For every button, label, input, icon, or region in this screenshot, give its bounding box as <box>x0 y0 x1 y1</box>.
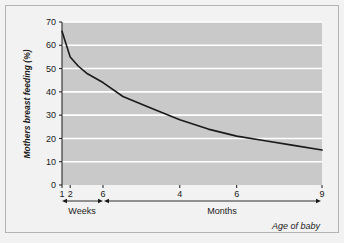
x-axis-ticks-group: 126469 <box>59 185 324 199</box>
x-axis-tick-label: 6 <box>234 189 239 199</box>
weeks-span-group: Weeks <box>62 199 103 216</box>
y-axis-tick-label: 10 <box>46 157 56 167</box>
y-axis-tick-label: 40 <box>46 87 56 97</box>
y-axis-tick-label: 20 <box>46 134 56 144</box>
months-span-right-arrowhead <box>316 199 321 203</box>
y-axis-tick-label: 70 <box>46 17 56 27</box>
months-span-group: Months <box>104 199 321 216</box>
weeks-span-right-arrowhead <box>98 199 103 203</box>
weeks-span-label: Weeks <box>68 206 96 216</box>
x-axis-tick-label: 6 <box>100 189 105 199</box>
x-axis-tick-label: 4 <box>177 189 182 199</box>
y-axis-tick-label: 50 <box>46 64 56 74</box>
x-axis-title: Age of baby <box>271 221 321 231</box>
y-axis-tick-label: 60 <box>46 40 56 50</box>
plot-background <box>62 22 322 185</box>
x-axis-tick-label: 1 <box>59 189 64 199</box>
x-axis-tick-label: 9 <box>319 189 324 199</box>
y-axis-ticks-group: 010203040506070 <box>46 17 62 190</box>
x-axis-tick-label: 2 <box>68 189 73 199</box>
y-axis-tick-label: 0 <box>51 180 56 190</box>
months-span-label: Months <box>207 206 237 216</box>
months-span-left-arrowhead <box>104 199 109 203</box>
chart-canvas: 010203040506070 Mothers breast feeding (… <box>0 0 344 243</box>
y-axis-tick-label: 30 <box>46 110 56 120</box>
weeks-span-left-arrowhead <box>62 199 67 203</box>
y-axis-title: Mothers breast feeding (%) <box>22 49 32 158</box>
figure-container: 010203040506070 Mothers breast feeding (… <box>0 0 344 243</box>
